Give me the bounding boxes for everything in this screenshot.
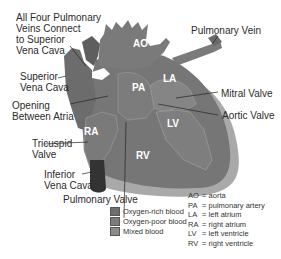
swatch-mixed — [110, 227, 120, 236]
abbr-row-ao: AO = aorta — [188, 191, 265, 201]
abbr-row-la: LA = left atrium — [188, 210, 265, 220]
legend-item-mixed: Mixed blood — [110, 227, 187, 236]
label-pulmonary-valve: Pulmonary Valve — [63, 194, 138, 205]
label-pulmonary-vein: Pulmonary Vein — [191, 25, 261, 36]
chamber-label-pa: PA — [132, 82, 145, 93]
abbr-row-lv: LV = left ventricle — [188, 229, 265, 239]
blood-type-legend: Oxygen-rich blood Oxygen-poor blood Mixe… — [110, 207, 187, 237]
chamber-label-rv: RV — [136, 150, 150, 161]
chamber-label-lv: LV — [167, 118, 179, 129]
abbr-row-pa: PA = pulmonary artery — [188, 201, 265, 211]
abbr-row-rv: RV = right ventricle — [188, 239, 265, 249]
legend-item-oxygen-rich: Oxygen-rich blood — [110, 207, 187, 216]
label-superior-vena-cava: Superior Vena Cava — [20, 71, 69, 93]
chamber-label-ao: AO — [133, 38, 148, 49]
label-pulmonary-veins-connect: All Four Pulmonary Veins Connect to Supe… — [16, 12, 101, 56]
label-inferior-vena-cava: Inferior Vena Cava — [44, 169, 93, 191]
chamber-label-ra: RA — [84, 126, 98, 137]
abbreviation-key: AO = aorta PA = pulmonary artery LA = le… — [188, 191, 265, 248]
label-mitral-valve: Mitral Valve — [221, 88, 273, 99]
chamber-label-la: LA — [163, 73, 176, 84]
swatch-oxygen-poor — [110, 217, 120, 226]
pulmonary-vein-shape — [172, 34, 222, 66]
label-tricuspid-valve: Tricuspid Valve — [32, 138, 72, 160]
legend-item-oxygen-poor: Oxygen-poor blood — [110, 217, 187, 226]
swatch-oxygen-rich — [110, 207, 120, 216]
label-opening-between-atria: Opening Between Atria — [12, 100, 74, 122]
abbr-row-ra: RA = right atrium — [188, 220, 265, 230]
label-aortic-valve: Aortic Valve — [222, 110, 275, 121]
